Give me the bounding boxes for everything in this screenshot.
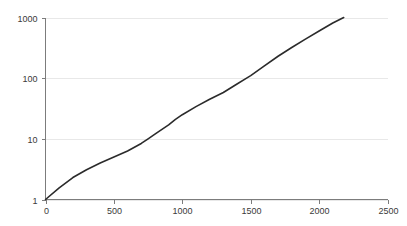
axes: [46, 18, 388, 200]
y-tick-label-100: 100: [22, 74, 37, 84]
x-tick-label-500: 500: [107, 206, 122, 216]
series-line-1: [46, 18, 344, 200]
gridlines: [46, 19, 388, 201]
line-chart-semilog: 05001000150020002500 1101001000: [0, 0, 407, 226]
data-series: [46, 18, 344, 200]
x-tick-label-0: 0: [44, 206, 49, 216]
x-axis-tick-labels: 05001000150020002500: [44, 206, 399, 216]
x-tick-label-2500: 2500: [378, 206, 398, 216]
chart-container: 05001000150020002500 1101001000: [0, 0, 407, 226]
y-tick-label-10: 10: [27, 135, 37, 145]
x-tick-label-1000: 1000: [172, 206, 192, 216]
y-tick-label-1: 1: [32, 196, 37, 206]
x-tick-label-1500: 1500: [241, 206, 261, 216]
y-axis-ticks: [42, 19, 46, 201]
x-tick-label-2000: 2000: [309, 206, 329, 216]
y-tick-label-1000: 1000: [17, 14, 37, 24]
y-axis-tick-labels: 1101001000: [17, 14, 37, 206]
